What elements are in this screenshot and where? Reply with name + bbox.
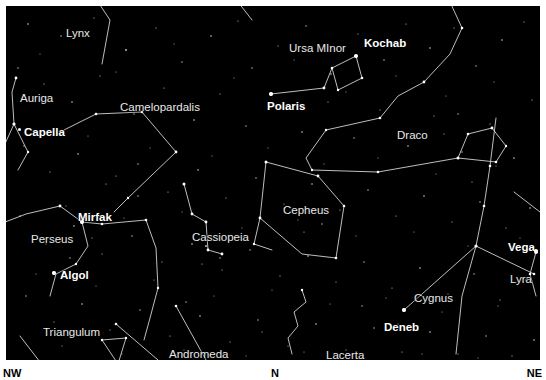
- background-star-field: [17, 17, 535, 358]
- compass-label-n: N: [271, 368, 279, 379]
- line-cygnus: [456, 118, 496, 354]
- star-dot-vega: [534, 249, 538, 253]
- line-andromeda: [116, 324, 158, 360]
- line-perseus-c: [144, 220, 158, 340]
- star-dot-kochab: [354, 54, 358, 58]
- star-dot-deneb: [402, 308, 406, 312]
- sky-area[interactable]: Lynx Auriga Camelopardalis Ursa MInor Dr…: [6, 6, 540, 360]
- line-lynx: [98, 6, 110, 64]
- line-cassiopeia: [184, 184, 222, 254]
- line-andromeda-b: [176, 306, 206, 360]
- line-ursa-minor: [271, 56, 362, 94]
- line-lacerta: [288, 290, 306, 354]
- compass-label-ne: NE: [527, 368, 542, 379]
- line-cygnus-cross: [404, 246, 534, 310]
- line-edge-top: [238, 6, 252, 20]
- line-cepheus-b: [254, 218, 272, 250]
- line-camelopardalis: [64, 112, 176, 212]
- line-cepheus: [260, 162, 344, 258]
- sky-graphics: [6, 6, 540, 360]
- star-dot-polaris: [269, 92, 273, 96]
- line-edge-right: [514, 192, 540, 212]
- line-auriga-b: [14, 124, 28, 170]
- constellation-stars: [12, 27, 538, 341]
- star-dot-mirfak: [80, 220, 84, 224]
- line-draco: [306, 6, 462, 172]
- star-chart: Lynx Auriga Camelopardalis Ursa MInor Dr…: [0, 0, 546, 380]
- line-edge-left-bottom: [20, 336, 40, 360]
- star-dot-algol: [52, 271, 56, 275]
- line-draco-head: [458, 128, 506, 162]
- line-perseus-b: [50, 222, 88, 296]
- line-triangulum: [102, 338, 126, 360]
- line-auriga: [6, 78, 16, 162]
- compass-label-nw: NW: [3, 368, 21, 379]
- line-perseus: [6, 206, 146, 224]
- star-dot-capella: [18, 128, 21, 131]
